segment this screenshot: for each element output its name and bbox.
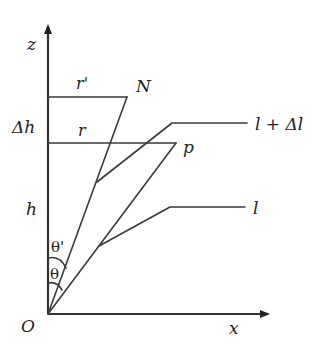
branch-l-plus-delta-l bbox=[97, 123, 247, 182]
theta-prime-label: θ' bbox=[51, 238, 64, 256]
line-O-N bbox=[48, 97, 127, 314]
z-axis-label: z bbox=[26, 34, 37, 54]
l-label: l bbox=[253, 198, 258, 218]
h-label: h bbox=[26, 199, 37, 219]
r-prime-label: r' bbox=[76, 74, 88, 93]
l-plus-delta-l-label: l + Δl bbox=[255, 114, 303, 134]
origin-label: O bbox=[21, 316, 35, 336]
N-label: N bbox=[135, 76, 152, 96]
angle-arc-theta bbox=[48, 283, 62, 290]
branch-l bbox=[99, 207, 245, 246]
theta-label: θ bbox=[50, 265, 59, 283]
r-label: r bbox=[78, 121, 87, 140]
p-label: p bbox=[183, 137, 194, 157]
delta-h-label: Δh bbox=[11, 117, 35, 137]
line-O-p bbox=[48, 143, 176, 314]
x-axis-label: x bbox=[229, 318, 239, 338]
geometry-diagram: z x O r' N r p Δh h l + Δl l θ' θ bbox=[0, 0, 313, 350]
